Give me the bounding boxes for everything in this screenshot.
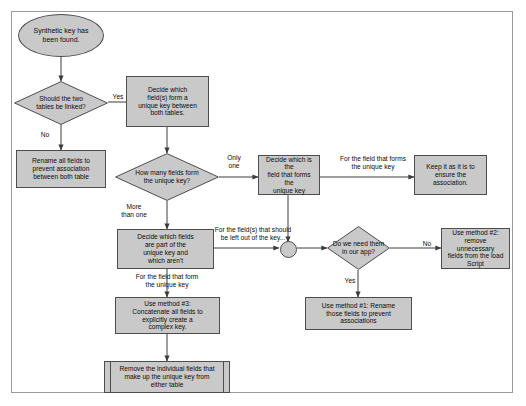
node-junction[interactable]	[280, 241, 297, 258]
node-start-label: Synthetic key has been found.	[31, 27, 92, 44]
node-remove-individual-label: Remove the individual fields that make u…	[112, 365, 223, 388]
connector-layer	[0, 0, 526, 406]
node-rename-all[interactable]: Rename all fields to prevent association…	[16, 150, 106, 188]
node-decide-fields-label: Decide which field(s) form a unique key …	[135, 86, 200, 117]
node-method3[interactable]: Use method #3: Concatenate all fields to…	[115, 297, 220, 334]
edge-label-yes-need: Yes	[341, 277, 359, 285]
node-start[interactable]: Synthetic key has been found.	[18, 14, 104, 57]
edge-label-no-need: No	[418, 240, 436, 248]
node-decide-which-is-label: Decide which is the field that forms the…	[259, 156, 319, 195]
edge-label-for-fields-left-out: For the field(s) that should be left out…	[207, 226, 299, 241]
edge-label-more-than-one: More than one	[112, 203, 156, 218]
node-should-link-label: Should the two tables be linked?	[14, 81, 108, 125]
flowchart-canvas: Synthetic key has been found. Should the…	[0, 0, 526, 406]
node-decide-part-of-label: Decide which fields are part of the uniq…	[134, 233, 196, 264]
node-decide-fields[interactable]: Decide which field(s) form a unique key …	[126, 76, 209, 127]
node-remove-individual[interactable]: Remove the individual fields that make u…	[104, 361, 230, 393]
node-method3-label: Use method #3: Concatenate all fields to…	[129, 300, 205, 331]
node-how-many-label: How many fields form the unique key?	[115, 153, 219, 201]
node-need-them[interactable]: Do we need them in our app?	[327, 226, 390, 270]
node-keep-as-is[interactable]: Keep it as it is to ensure the associati…	[414, 155, 487, 195]
edge-label-yes-link: Yes	[106, 93, 130, 101]
node-decide-which-is[interactable]: Decide which is the field that forms the…	[258, 155, 320, 195]
edge-label-no-link: No	[34, 131, 56, 139]
node-decide-part-of[interactable]: Decide which fields are part of the uniq…	[117, 229, 214, 269]
node-rename-all-label: Rename all fields to prevent association…	[29, 157, 93, 180]
node-need-them-label: Do we need them in our app?	[305, 226, 413, 270]
node-should-link[interactable]: Should the two tables be linked?	[14, 81, 108, 125]
node-how-many[interactable]: How many fields form the unique key?	[115, 153, 219, 201]
edge-label-for-field-that-form: For the field that form the unique key	[122, 273, 212, 288]
node-method1-label: Use method #1: Rename those fields to pr…	[319, 302, 398, 325]
edge-label-only-one: Only one	[218, 154, 250, 169]
edge-label-for-field-forms-unique-key: For the field that forms the unique key	[330, 155, 416, 170]
node-keep-as-is-label: Keep it as it is to ensure the associati…	[423, 163, 477, 186]
node-method2-label: Use method #2: remove unnecessary fields…	[442, 229, 509, 268]
node-method2[interactable]: Use method #2: remove unnecessary fields…	[441, 228, 510, 269]
node-method1[interactable]: Use method #1: Rename those fields to pr…	[305, 297, 412, 330]
